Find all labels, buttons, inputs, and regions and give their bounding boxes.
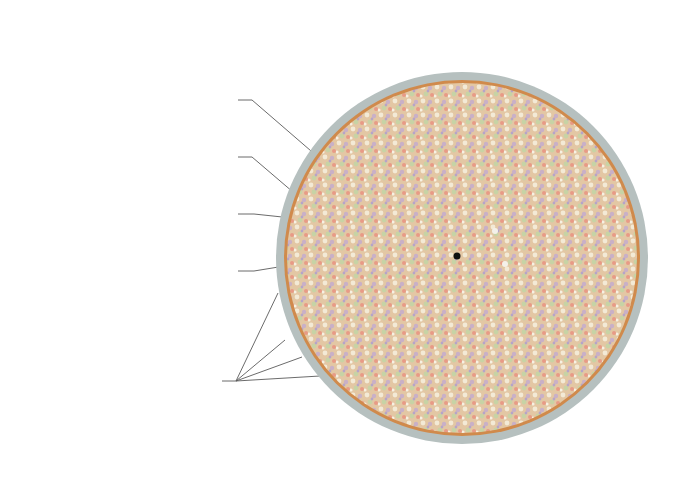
tegument (287, 83, 637, 433)
virion-illustration (0, 0, 674, 483)
herpes-virus-diagram (0, 0, 674, 483)
